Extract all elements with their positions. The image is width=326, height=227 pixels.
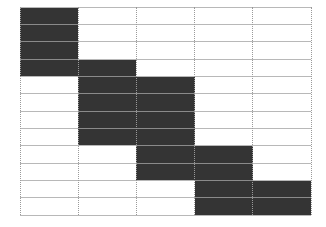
empty-cell [20,146,79,164]
empty-cell [20,94,79,112]
filled-cell [195,163,254,181]
filled-cell [195,146,254,164]
filled-cell [78,94,137,112]
empty-cell [253,59,312,77]
empty-cell [253,128,312,146]
row-divider [20,145,78,146]
empty-cell [195,24,254,42]
row-divider [20,41,78,42]
row-divider [136,76,194,77]
filled-cell [78,76,137,94]
row-divider [136,111,194,112]
row-divider [20,59,78,60]
row-divider [78,145,136,146]
empty-cell [253,163,312,181]
filled-cell [136,163,195,181]
empty-cell [136,198,195,216]
empty-cell [78,7,137,25]
row-divider [253,93,311,94]
row-divider [78,59,136,60]
row-divider [136,59,194,60]
row-divider [78,93,136,94]
empty-cell [195,111,254,129]
row-divider [253,76,311,77]
row-divider [20,111,78,112]
row-divider [195,197,253,198]
filled-cell [78,111,137,129]
column-divider [20,7,21,215]
empty-cell [136,180,195,198]
row-divider [195,145,253,146]
filled-cell [195,180,254,198]
row-divider [136,128,194,129]
filled-cell [195,198,254,216]
filled-cell [136,146,195,164]
row-divider [136,197,194,198]
filled-cell [78,128,137,146]
row-divider [136,145,194,146]
empty-cell [136,59,195,77]
row-divider [78,111,136,112]
row-divider [20,76,78,77]
row-divider [20,163,78,164]
column-divider [78,7,79,215]
row-divider [195,215,253,216]
empty-cell [253,7,312,25]
row-divider [20,7,78,8]
empty-cell [78,163,137,181]
row-divider [253,128,311,129]
filled-cell [20,7,79,25]
row-divider [253,215,311,216]
row-divider [78,163,136,164]
empty-cell [20,198,79,216]
filled-cell [78,59,137,77]
row-divider [136,7,194,8]
row-divider [20,197,78,198]
row-divider [20,93,78,94]
empty-cell [78,146,137,164]
empty-cell [136,42,195,60]
empty-cell [20,128,79,146]
row-divider [136,163,194,164]
row-divider [78,197,136,198]
row-divider [195,7,253,8]
empty-cell [20,163,79,181]
empty-cell [136,7,195,25]
row-divider [253,145,311,146]
empty-cell [195,76,254,94]
column-divider [194,7,195,215]
row-divider [136,180,194,181]
filled-cell [253,180,312,198]
row-divider [78,7,136,8]
empty-cell [78,198,137,216]
empty-cell [78,42,137,60]
filled-cell [136,111,195,129]
empty-cell [253,42,312,60]
empty-cell [253,24,312,42]
filled-cell [136,94,195,112]
row-divider [78,76,136,77]
empty-cell [253,94,312,112]
row-divider [78,24,136,25]
column-divider [136,7,137,215]
row-divider [195,111,253,112]
filled-cell [253,198,312,216]
row-divider [195,59,253,60]
row-divider [195,76,253,77]
empty-cell [20,111,79,129]
row-divider [20,215,78,216]
filled-cell [20,42,79,60]
row-divider [253,59,311,60]
filled-cell [136,128,195,146]
empty-cell [78,24,137,42]
row-divider [136,24,194,25]
empty-cell [195,128,254,146]
column-divider [311,7,312,215]
filled-cell [136,76,195,94]
row-divider [20,128,78,129]
row-divider [136,93,194,94]
row-divider [195,128,253,129]
empty-cell [78,180,137,198]
empty-cell [136,24,195,42]
filled-cell [20,59,79,77]
